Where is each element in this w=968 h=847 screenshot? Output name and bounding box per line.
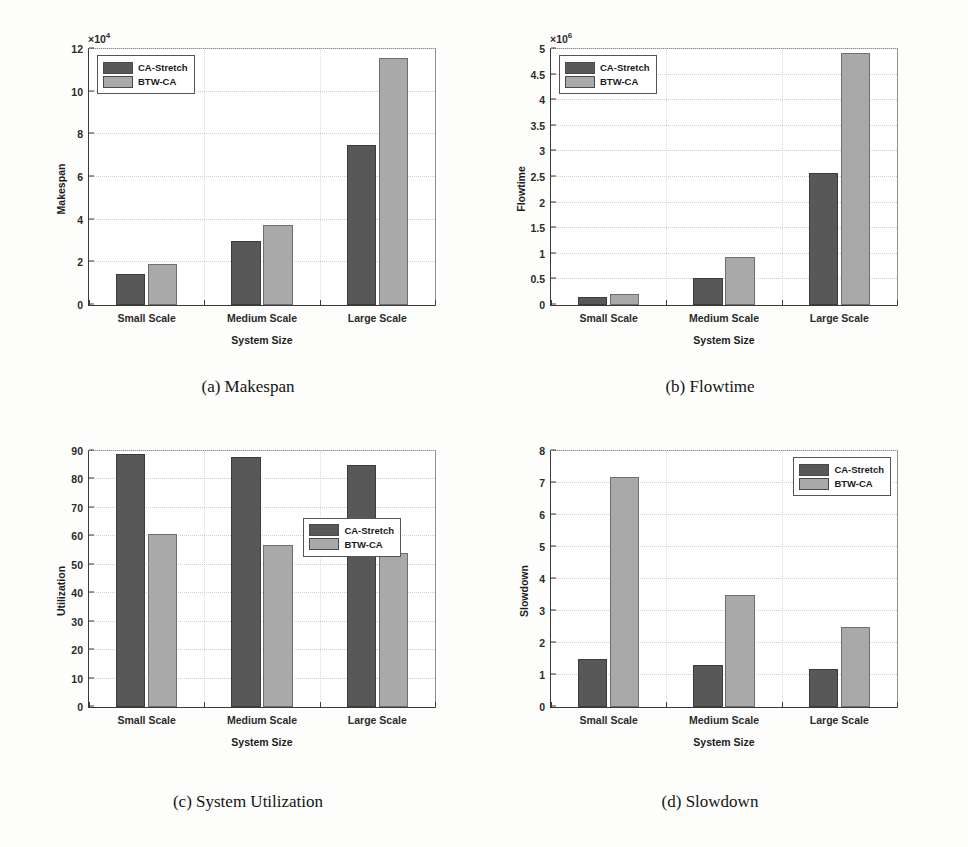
y-tick-mark xyxy=(551,150,556,151)
gridline xyxy=(551,514,897,515)
legend-label: CA-Stretch xyxy=(138,62,188,73)
gridline xyxy=(551,48,897,49)
y-axis-label-a: Makespan xyxy=(55,164,67,215)
gridline xyxy=(551,578,897,579)
x-axis-label-d: System Size xyxy=(550,736,898,748)
y-axis-exponent-b: ×106 xyxy=(550,31,572,45)
x-tick-mark xyxy=(551,300,552,305)
y-tick-label: 3 xyxy=(539,145,545,157)
y-tick-label: 4 xyxy=(539,573,545,585)
gridline xyxy=(551,546,897,547)
vertical-gridline xyxy=(666,49,667,305)
legend-item[interactable]: CA-Stretch xyxy=(565,61,650,74)
y-tick-mark xyxy=(89,649,94,650)
y-tick-mark xyxy=(89,218,94,219)
gridline xyxy=(89,450,435,451)
x-tick-label: Large Scale xyxy=(348,312,407,324)
y-tick-label: 5 xyxy=(539,43,545,55)
figure-sheet: ×104 Makespan 024681012Small ScaleMedium… xyxy=(0,0,968,847)
bar-btw-ca-large-scale xyxy=(379,58,408,305)
panel-slowdown: Slowdown 012345678Small ScaleMedium Scal… xyxy=(484,432,936,820)
bar-ca-stretch-large-scale xyxy=(347,465,376,707)
gridline xyxy=(89,48,435,49)
y-tick-mark xyxy=(551,642,556,643)
x-tick-mark xyxy=(782,300,783,305)
legend-item[interactable]: BTW-CA xyxy=(309,538,394,551)
bar-btw-ca-large-scale xyxy=(841,53,870,305)
chart-legend[interactable]: CA-StretchBTW-CA xyxy=(793,457,891,496)
bar-ca-stretch-small-scale xyxy=(578,297,607,305)
x-tick-mark xyxy=(89,702,90,707)
y-tick-label: 80 xyxy=(71,473,83,485)
chart-legend[interactable]: CA-StretchBTW-CA xyxy=(559,55,657,94)
y-tick-label: 6 xyxy=(77,171,83,183)
x-tick-label: Medium Scale xyxy=(689,312,759,324)
x-tick-mark xyxy=(320,702,321,707)
legend-label: CA-Stretch xyxy=(834,464,884,475)
y-tick-mark xyxy=(551,578,556,579)
bar-btw-ca-small-scale xyxy=(610,294,639,305)
x-tick-mark xyxy=(551,702,552,707)
y-tick-mark xyxy=(89,133,94,134)
legend-item[interactable]: BTW-CA xyxy=(565,75,650,88)
x-tick-label: Small Scale xyxy=(117,312,175,324)
y-tick-mark xyxy=(89,261,94,262)
y-tick-mark xyxy=(551,99,556,100)
legend-item[interactable]: CA-Stretch xyxy=(103,61,188,74)
x-tick-label: Large Scale xyxy=(810,714,869,726)
y-tick-label: 0 xyxy=(77,299,83,311)
legend-swatch-icon xyxy=(309,524,339,536)
x-tick-label: Large Scale xyxy=(810,312,869,324)
y-tick-label: 20 xyxy=(71,644,83,656)
y-tick-label: 10 xyxy=(71,673,83,685)
x-tick-label: Small Scale xyxy=(579,714,637,726)
y-tick-label: 0 xyxy=(539,299,545,311)
y-tick-mark xyxy=(89,677,94,678)
x-tick-label: Medium Scale xyxy=(227,312,297,324)
x-tick-mark xyxy=(89,300,90,305)
chart-legend[interactable]: CA-StretchBTW-CA xyxy=(97,55,195,94)
legend-label: BTW-CA xyxy=(138,76,176,87)
y-tick-label: 1.5 xyxy=(530,222,545,234)
y-tick-mark xyxy=(89,176,94,177)
vertical-gridline xyxy=(204,451,205,707)
x-tick-label: Small Scale xyxy=(579,312,637,324)
y-tick-mark xyxy=(89,535,94,536)
y-tick-mark xyxy=(551,201,556,202)
y-tick-mark xyxy=(89,506,94,507)
plot-area-a: ×104 Makespan 024681012Small ScaleMedium… xyxy=(22,30,474,348)
y-tick-label: 2 xyxy=(77,256,83,268)
x-axis-label-b: System Size xyxy=(550,334,898,346)
x-tick-mark xyxy=(666,300,667,305)
bar-ca-stretch-small-scale xyxy=(578,659,607,707)
legend-label: BTW-CA xyxy=(600,76,638,87)
legend-swatch-icon xyxy=(309,538,339,550)
y-tick-mark xyxy=(551,124,556,125)
legend-label: BTW-CA xyxy=(344,539,382,550)
y-tick-mark xyxy=(551,450,556,451)
y-tick-label: 10 xyxy=(71,86,83,98)
y-tick-label: 5 xyxy=(539,541,545,553)
legend-item[interactable]: BTW-CA xyxy=(103,75,188,88)
y-tick-label: 70 xyxy=(71,502,83,514)
x-tick-label: Large Scale xyxy=(348,714,407,726)
panel-makespan: ×104 Makespan 024681012Small ScaleMedium… xyxy=(22,30,474,405)
y-tick-label: 8 xyxy=(77,128,83,140)
legend-label: CA-Stretch xyxy=(344,525,394,536)
x-tick-mark xyxy=(204,300,205,305)
bar-btw-ca-small-scale xyxy=(148,264,177,305)
chart-legend[interactable]: CA-StretchBTW-CA xyxy=(303,518,401,557)
y-tick-label: 1 xyxy=(539,669,545,681)
legend-item[interactable]: BTW-CA xyxy=(799,477,884,490)
legend-item[interactable]: CA-Stretch xyxy=(309,524,394,537)
x-tick-mark xyxy=(320,300,321,305)
vertical-gridline xyxy=(320,451,321,707)
y-tick-label: 0 xyxy=(539,701,545,713)
bar-ca-stretch-large-scale xyxy=(809,173,838,305)
x-tick-mark xyxy=(204,702,205,707)
legend-label: CA-Stretch xyxy=(600,62,650,73)
x-tick-mark xyxy=(666,702,667,707)
legend-item[interactable]: CA-Stretch xyxy=(799,463,884,476)
y-tick-mark xyxy=(89,620,94,621)
x-axis-label-c: System Size xyxy=(88,736,436,748)
